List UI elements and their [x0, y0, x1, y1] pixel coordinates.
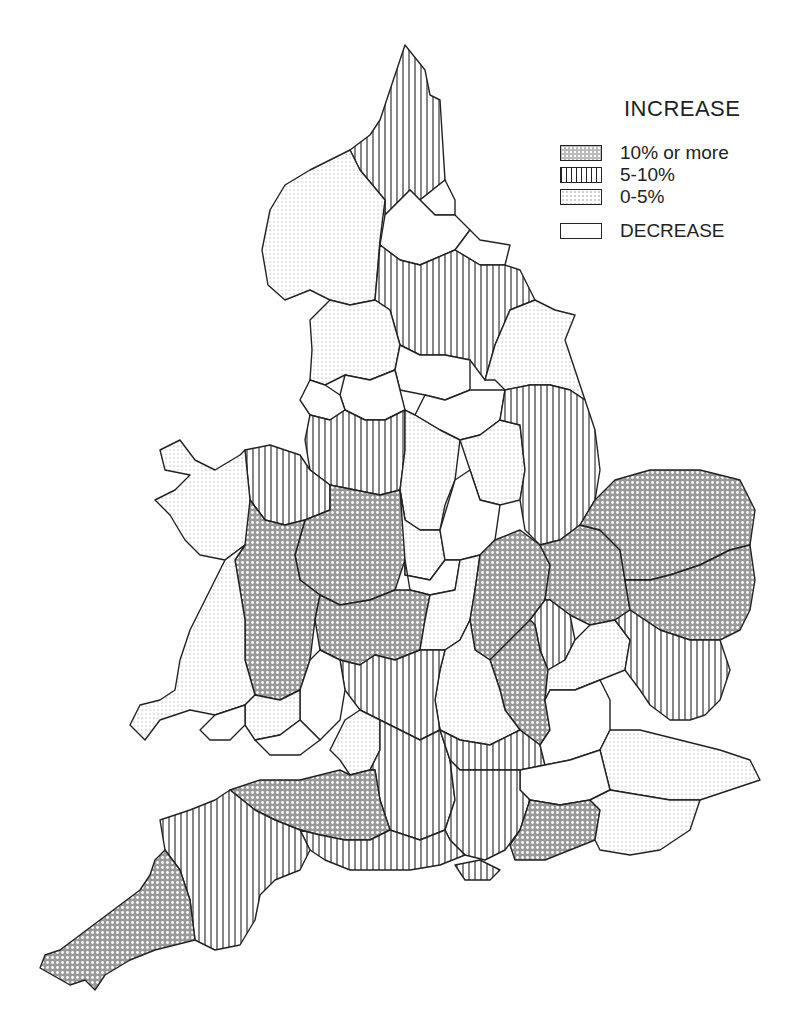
legend-label: 0-5% [620, 186, 664, 208]
legend-label: 10% or more [620, 142, 729, 164]
blank-swatch-icon [560, 223, 602, 239]
region-cornwall [40, 850, 195, 990]
vertical-lines-swatch-icon [560, 167, 602, 183]
dotted-swatch-icon [560, 189, 602, 205]
region-isle-of-wight [455, 860, 500, 880]
legend-title: INCREASE [624, 96, 790, 122]
legend: INCREASE 10% or more 5-10% 0-5% DECREASE [560, 96, 790, 242]
region-kent [600, 730, 760, 800]
region-dorset [300, 830, 465, 870]
crosshatch-swatch-icon [560, 145, 602, 161]
legend-label: 5-10% [620, 164, 675, 186]
legend-item-decrease: DECREASE [560, 220, 790, 242]
region-lancashire [310, 300, 400, 385]
legend-item-low: 0-5% [560, 186, 790, 208]
legend-item-mid: 5-10% [560, 164, 790, 186]
legend-item-high: 10% or more [560, 142, 790, 164]
legend-label: DECREASE [620, 220, 725, 242]
region-east-sussex [590, 790, 700, 855]
